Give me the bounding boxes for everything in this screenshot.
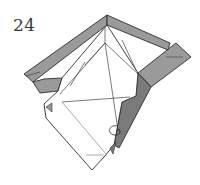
- origami-diagram: [0, 0, 200, 185]
